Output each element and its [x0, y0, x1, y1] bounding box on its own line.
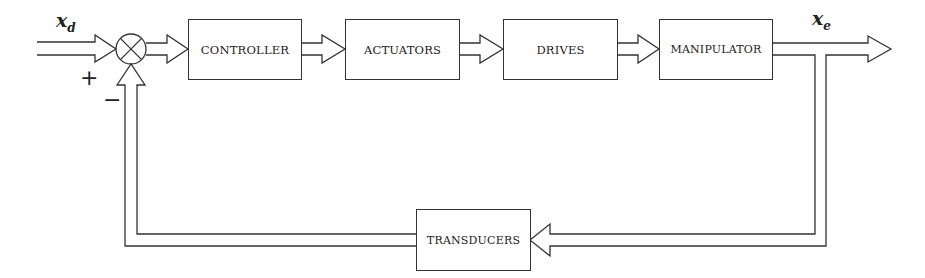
drives-label: DRIVES [536, 43, 584, 57]
arrow-controller-actuators [301, 35, 345, 63]
feedback-arrow [117, 64, 416, 246]
input-arrow [37, 35, 116, 62]
controller-block: CONTROLLER [188, 19, 302, 80]
manipulator-block: MANIPULATOR [659, 19, 773, 80]
drives-block: DRIVES [503, 19, 618, 80]
minus-sign: − [103, 87, 121, 112]
manipulator-label: MANIPULATOR [670, 43, 761, 56]
arrow-junction-controller [146, 35, 188, 63]
input-signal-label: xd [56, 9, 76, 35]
arrow-actuators-drives [459, 35, 503, 63]
output-signal-label: xe [812, 7, 831, 33]
actuators-block: ACTUATORS [345, 19, 460, 80]
plus-sign: + [80, 65, 98, 90]
controller-label: CONTROLLER [201, 43, 289, 57]
actuators-label: ACTUATORS [364, 43, 441, 57]
transducers-block: TRANSDUCERS [416, 209, 531, 271]
transducers-label: TRANSDUCERS [427, 234, 520, 247]
arrow-drives-manipulator [617, 35, 659, 63]
